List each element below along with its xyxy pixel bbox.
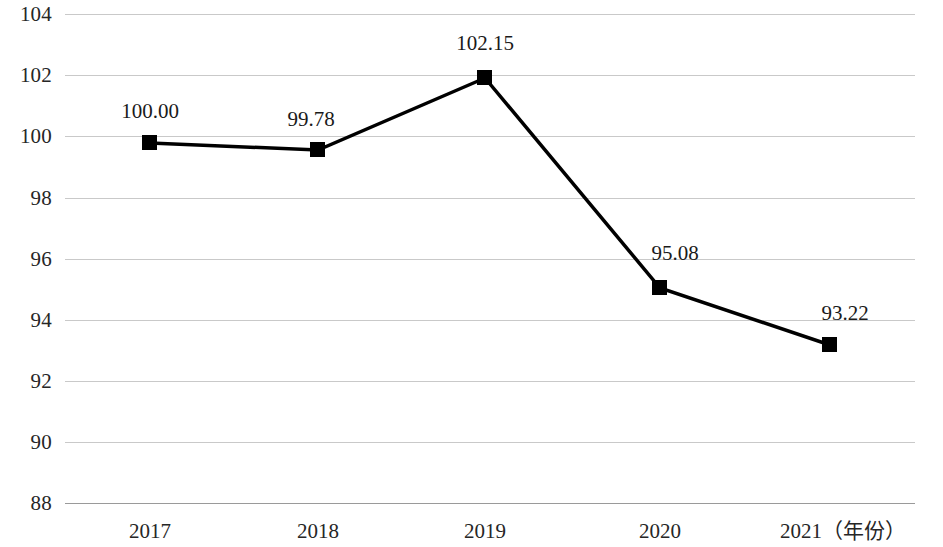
- data-label-2017: 100.00: [90, 101, 210, 122]
- data-point-marker-2018[interactable]: [310, 142, 325, 157]
- x-tick-label-2017: 2017: [90, 521, 210, 542]
- data-point-marker-2020[interactable]: [652, 280, 667, 295]
- data-label-2020: 95.08: [615, 243, 735, 264]
- data-point-marker-2017[interactable]: [142, 135, 157, 150]
- data-label-2021: 93.22: [785, 303, 905, 324]
- x-tick-label-2018: 2018: [258, 521, 378, 542]
- data-label-2018: 99.78: [251, 109, 371, 130]
- series-line-layer: [0, 0, 943, 547]
- data-label-2019: 102.15: [425, 33, 545, 54]
- x-tick-label-2019: 2019: [425, 521, 545, 542]
- line-chart: 104 102 100 98 96 94 92 90 88 100.00 99.…: [0, 0, 943, 547]
- data-point-marker-2019[interactable]: [477, 70, 492, 85]
- x-tick-label-2020: 2020: [600, 521, 720, 542]
- x-tick-label-2021: 2021（年份）: [780, 521, 940, 542]
- data-point-marker-2021[interactable]: [822, 337, 837, 352]
